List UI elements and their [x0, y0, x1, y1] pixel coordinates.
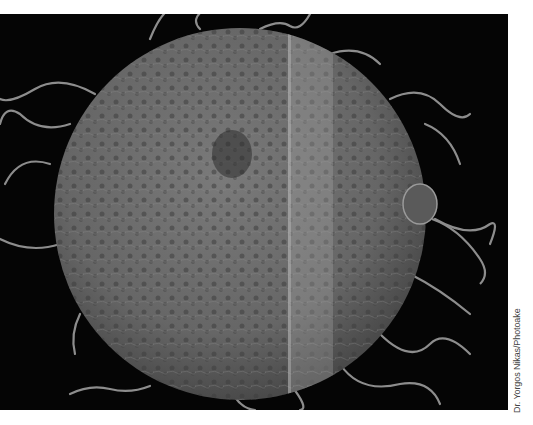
- micrograph-image: [0, 14, 508, 410]
- egg-cell-illustration: [0, 14, 508, 410]
- sperm-head: [403, 184, 437, 224]
- photo-credit: Dr. Yorgos Nikas/Photoake: [512, 308, 522, 413]
- highlight-stripe: [288, 14, 333, 410]
